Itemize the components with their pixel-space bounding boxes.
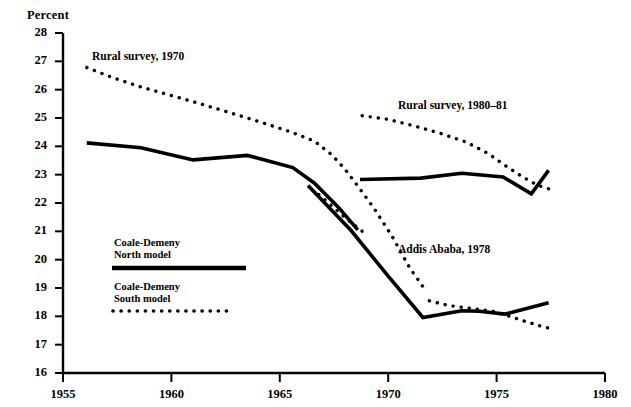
annotation-rural-survey-1980-81: Rural survey, 1980–81	[398, 99, 508, 111]
legend-north-label-line1: Coale-Demeny	[114, 237, 180, 250]
series-line-5	[319, 195, 362, 232]
annotation-rural-survey-1970: Rural survey, 1970	[92, 50, 184, 62]
y-tick-label-25: 25	[23, 110, 47, 125]
y-tick-label-24: 24	[23, 138, 47, 153]
legend-south-label-line1: Coale-Demeny	[114, 281, 180, 294]
x-tick-label-1960: 1960	[148, 387, 194, 402]
x-tick-label-1980: 1980	[582, 387, 628, 402]
y-tick-label-22: 22	[23, 195, 47, 210]
y-tick-label-20: 20	[23, 252, 47, 267]
y-tick-label-19: 19	[23, 280, 47, 295]
x-tick-label-1955: 1955	[40, 387, 86, 402]
series-line-1	[87, 143, 358, 230]
legend-south-label-line2: South model	[114, 293, 170, 306]
y-tick-label-16: 16	[23, 365, 47, 380]
y-tick-label-26: 26	[23, 82, 47, 97]
y-tick-label-21: 21	[23, 223, 47, 238]
x-tick-label-1965: 1965	[257, 387, 303, 402]
y-tick-label-28: 28	[23, 25, 47, 40]
x-tick-label-1975: 1975	[474, 387, 520, 402]
chart-root: Percent 28272625242322212019181716 19551…	[0, 0, 631, 407]
legend-north-label-line2: North model	[114, 249, 171, 262]
y-tick-label-23: 23	[23, 167, 47, 182]
y-tick-label-27: 27	[23, 53, 47, 68]
annotation-addis-ababa-1978: Addis Ababa, 1978	[398, 243, 490, 255]
y-tick-label-17: 17	[23, 337, 47, 352]
x-tick-label-1970: 1970	[365, 387, 411, 402]
y-tick-label-18: 18	[23, 308, 47, 323]
